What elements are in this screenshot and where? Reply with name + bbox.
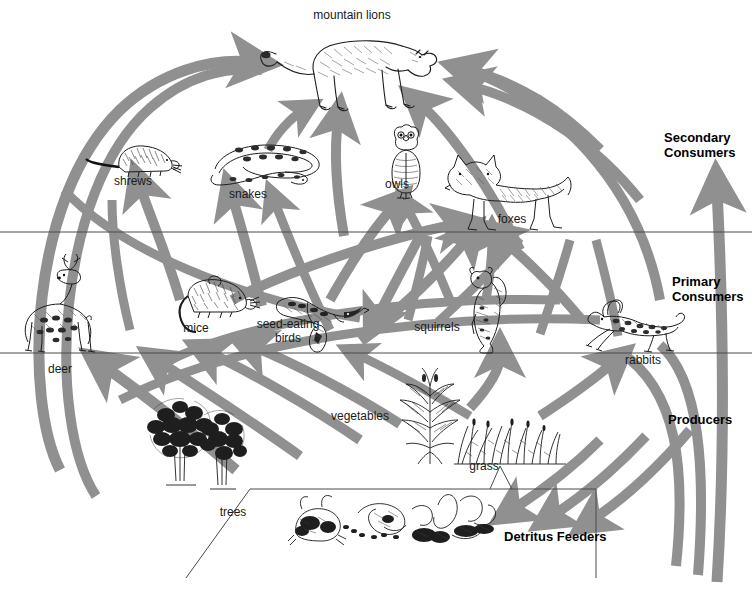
food-web-canvas: [0, 0, 752, 601]
label-squirrels: squirrels: [414, 320, 459, 334]
label-grass: grass: [469, 459, 498, 473]
arrow-to-shrews: [140, 186, 180, 300]
label-deer: deer: [48, 362, 72, 376]
arrow-grass-to-rabbits: [540, 362, 614, 416]
tier-label-primary-consumers: Primary Consumers: [672, 275, 744, 305]
arrow-right-trunk: [717, 190, 722, 582]
grass-art: [454, 419, 566, 464]
arrow-snakes-to-lion: [268, 110, 304, 150]
arrow-grass-to-squirrels: [470, 356, 500, 408]
label-rabbits: rabbits: [625, 353, 661, 367]
food-web-diagram: mountain lions shrews snakes owls foxes …: [0, 0, 752, 601]
mountain-lions-art: [261, 41, 437, 111]
snakes-art: [211, 145, 319, 185]
label-owls: owls: [385, 177, 409, 191]
label-seed-eating-birds-line1: seed-eating: [257, 318, 320, 332]
arrow-to-shrews2: [112, 200, 130, 330]
detritus-feeders-art: [288, 495, 496, 545]
label-seed-eating-birds-line2: birds: [257, 332, 320, 346]
label-shrews: shrews: [114, 174, 152, 188]
tier-label-detritus-feeders: Detritus Feeders: [504, 530, 607, 545]
arrow-to-detritus1: [512, 440, 600, 510]
tier-label-secondary-consumers: Secondary Consumers: [664, 131, 736, 161]
tier-label-producers: Producers: [668, 413, 732, 428]
label-trees: trees: [220, 505, 247, 519]
label-mountain-lions: mountain lions: [313, 8, 390, 22]
label-mice: mice: [183, 321, 208, 335]
label-snakes: snakes: [229, 187, 267, 201]
label-vegetables: vegetables: [331, 409, 389, 423]
arrow-to-lion-center: [336, 120, 344, 236]
label-seed-eating-birds: seed-eating birds: [257, 318, 320, 346]
rabbits-art: [586, 300, 685, 352]
label-foxes: foxes: [498, 212, 527, 226]
grass-pointer-line: [500, 466, 512, 489]
arrow-cross-3: [438, 238, 520, 322]
